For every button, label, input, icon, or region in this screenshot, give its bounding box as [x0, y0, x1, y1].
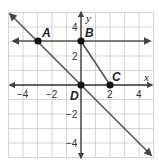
tick-y-neg2: −2 — [66, 109, 78, 120]
label-A: A — [41, 26, 51, 40]
tick-x-4: 4 — [136, 89, 142, 100]
x-axis-label: x — [143, 71, 149, 83]
label-D: D — [70, 89, 79, 103]
point-B — [77, 37, 84, 44]
tick-y-neg4: −4 — [66, 138, 78, 149]
y-axis-label: y — [85, 12, 91, 24]
points — [34, 37, 113, 88]
tick-x-neg4: −4 — [17, 89, 29, 100]
coordinate-plane: A B C D x y −4 −2 2 4 4 2 −2 −4 — [0, 0, 159, 168]
label-B: B — [85, 26, 94, 40]
point-D — [77, 81, 84, 88]
label-C: C — [112, 70, 121, 84]
tick-x-neg2: −2 — [46, 89, 58, 100]
tick-x-2: 2 — [107, 89, 113, 100]
tick-y-4: 4 — [72, 22, 78, 33]
point-A — [34, 37, 41, 44]
tick-y-2: 2 — [72, 51, 78, 62]
